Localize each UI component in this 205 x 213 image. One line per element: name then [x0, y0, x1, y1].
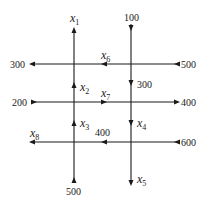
label-x2: x2 — [79, 80, 89, 96]
arrow-right-icon — [174, 100, 180, 105]
arrow-left-icon — [29, 140, 35, 145]
arrow-up-icon — [72, 177, 77, 183]
arrow-down-icon — [129, 120, 134, 126]
label-x1: x1 — [69, 11, 79, 27]
flow-top-left-out: 300 — [10, 59, 25, 70]
label-x7: x7 — [100, 86, 110, 102]
label-x6: x6 — [100, 48, 110, 64]
flow-middle-left-in: 200 — [12, 97, 27, 108]
flow-bottom-right-in: 600 — [181, 137, 196, 148]
flow-top-right-in-h: 500 — [181, 59, 196, 70]
flow-bottom-mid: 400 — [95, 127, 110, 138]
arrow-left-icon — [174, 62, 180, 67]
arrow-down-icon — [129, 80, 134, 86]
flow-right-mid-vertical: 300 — [137, 79, 152, 90]
arrow-down-icon — [129, 180, 134, 186]
arrow-up-icon — [72, 120, 77, 126]
label-x8: x8 — [29, 126, 39, 142]
arrow-down-icon — [129, 25, 134, 31]
flow-middle-right-out: 400 — [181, 97, 196, 108]
arrow-up-icon — [72, 82, 77, 88]
flow-left-bottom-in: 500 — [66, 186, 81, 197]
arrow-left-icon — [101, 140, 107, 145]
label-x4: x4 — [136, 116, 146, 132]
arrow-right-icon — [31, 100, 37, 105]
label-x3: x3 — [79, 116, 89, 132]
traffic-network-diagram: x1 x2 x3 x4 x5 x6 x7 x8 100 300 500 300 … — [0, 0, 205, 213]
flow-top-right-in: 100 — [124, 12, 139, 23]
arrow-up-icon — [72, 27, 77, 33]
arrow-left-icon — [29, 62, 35, 67]
arrow-left-icon — [174, 140, 180, 145]
label-x5: x5 — [136, 172, 146, 188]
